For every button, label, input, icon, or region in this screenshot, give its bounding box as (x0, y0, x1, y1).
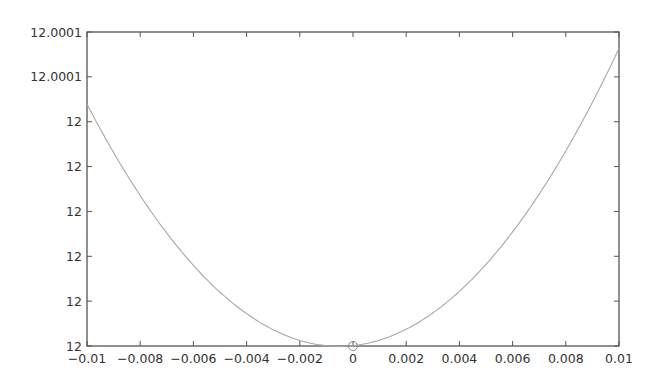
x-tick-label: −0.006 (170, 351, 216, 366)
x-tick-label: 0 (349, 351, 357, 366)
y-axis-ticks (87, 32, 619, 346)
y-tick-label: 12.0001 (30, 69, 82, 84)
x-tick-label: −0.004 (223, 351, 269, 366)
x-tick-label: 0.01 (605, 351, 633, 366)
y-tick-label: 12 (66, 339, 82, 354)
y-tick-label: 12 (66, 294, 82, 309)
y-axis-labels: 12121212121212.000112.0001 (30, 25, 82, 354)
x-tick-label: 0.004 (442, 351, 478, 366)
chart: −0.01−0.008−0.006−0.004−0.00200.0020.004… (0, 0, 663, 389)
y-tick-label: 12 (66, 204, 82, 219)
y-tick-label: 12.0001 (30, 25, 82, 40)
x-axis-ticks (87, 32, 619, 346)
x-tick-label: 0.008 (548, 351, 584, 366)
x-tick-label: 0.006 (495, 351, 531, 366)
y-tick-label: 12 (66, 114, 82, 129)
plot-frame (87, 32, 619, 346)
y-tick-label: 12 (66, 159, 82, 174)
x-tick-label: −0.008 (117, 351, 163, 366)
y-tick-label: 12 (66, 249, 82, 264)
x-tick-label: −0.002 (277, 351, 323, 366)
data-line (87, 48, 619, 346)
x-axis-labels: −0.01−0.008−0.006−0.004−0.00200.0020.004… (68, 351, 633, 366)
x-tick-label: 0.002 (388, 351, 424, 366)
